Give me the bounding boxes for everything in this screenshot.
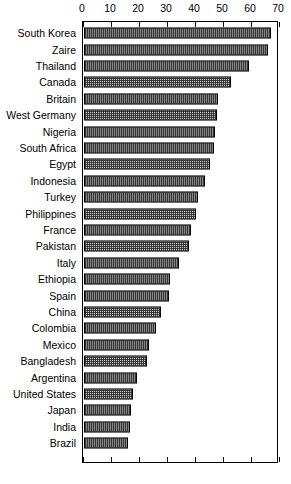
bar-row: Nigeria <box>0 123 291 139</box>
category-label: Egypt <box>49 158 76 170</box>
category-label: Bangladesh <box>21 355 76 367</box>
bar-row: Canada <box>0 74 291 90</box>
bar-row: Zaire <box>0 41 291 57</box>
bar-row: Indonesia <box>0 173 291 189</box>
category-label: South Korea <box>18 27 76 39</box>
bar-row: China <box>0 304 291 320</box>
bar-row: Ethiopia <box>0 271 291 287</box>
bar <box>84 93 218 104</box>
bar-row: France <box>0 222 291 238</box>
bar <box>84 339 150 350</box>
x-axis-tick-label: 30 <box>160 2 172 14</box>
category-label: Turkey <box>44 191 76 203</box>
bar-row: Argentina <box>0 369 291 385</box>
category-label: Mexico <box>43 339 76 351</box>
category-label: India <box>53 421 76 433</box>
bar-row: United States <box>0 386 291 402</box>
x-axis-tick-labels-top: 010203040506070 <box>0 2 291 16</box>
bar-row: Italy <box>0 255 291 271</box>
bar <box>84 126 216 137</box>
category-label: Italy <box>57 257 76 269</box>
bar-row: Colombia <box>0 320 291 336</box>
category-label: Nigeria <box>43 126 76 138</box>
bar <box>84 44 269 55</box>
category-label: Canada <box>39 76 76 88</box>
category-label: Thailand <box>36 60 76 72</box>
bar-row: Bangladesh <box>0 353 291 369</box>
bar-row: India <box>0 419 291 435</box>
category-label: Britain <box>46 93 76 105</box>
x-axis-tick-label: 60 <box>244 2 256 14</box>
x-axis-tick-label: 50 <box>216 2 228 14</box>
bar <box>84 257 179 268</box>
bar-row: West Germany <box>0 107 291 123</box>
bar <box>84 110 217 121</box>
bar <box>84 224 192 235</box>
bar-rows-container: South KoreaZaireThailandCanadaBritainWes… <box>0 21 291 463</box>
category-label: United States <box>13 388 76 400</box>
category-label: Zaire <box>52 44 76 56</box>
category-label: China <box>49 306 76 318</box>
category-label: Argentina <box>31 372 76 384</box>
bar <box>84 372 137 383</box>
category-label: Colombia <box>32 322 76 334</box>
category-label: Spain <box>49 290 76 302</box>
bar <box>84 208 196 219</box>
bar <box>84 274 171 285</box>
bar-row: Philippines <box>0 205 291 221</box>
bar <box>84 388 133 399</box>
category-label: Ethiopia <box>38 273 76 285</box>
bar <box>84 306 161 317</box>
bar <box>84 192 199 203</box>
bar <box>84 405 132 416</box>
x-axis-tick-label: 70 <box>272 2 284 14</box>
bar <box>84 356 147 367</box>
x-axis-tick-label: 40 <box>188 2 200 14</box>
bar <box>84 77 231 88</box>
bar-row: Mexico <box>0 337 291 353</box>
bar <box>84 438 129 449</box>
category-label: South Africa <box>19 142 76 154</box>
bar-row: Egypt <box>0 156 291 172</box>
category-label: Japan <box>47 404 76 416</box>
bar-chart: 010203040506070 South KoreaZaireThailand… <box>0 0 291 484</box>
x-axis-tick-label: 10 <box>104 2 116 14</box>
bar-row: Spain <box>0 287 291 303</box>
category-label: Brazil <box>50 437 76 449</box>
category-label: France <box>43 224 76 236</box>
bar-row: Pakistan <box>0 238 291 254</box>
bar-row: Britain <box>0 91 291 107</box>
bar <box>84 290 169 301</box>
bar <box>84 175 206 186</box>
bar-row: Turkey <box>0 189 291 205</box>
bar-row: South Africa <box>0 140 291 156</box>
bar <box>84 241 189 252</box>
bar-row: Japan <box>0 402 291 418</box>
category-label: Pakistan <box>36 240 76 252</box>
bar <box>84 28 272 39</box>
x-axis-tick-label: 0 <box>79 2 85 14</box>
category-label: Indonesia <box>30 175 76 187</box>
bar-row: Brazil <box>0 435 291 451</box>
category-label: Philippines <box>25 208 76 220</box>
bar <box>84 159 210 170</box>
bar <box>84 323 157 334</box>
bar <box>84 142 214 153</box>
bar-row: Thailand <box>0 58 291 74</box>
bar <box>84 421 130 432</box>
category-label: West Germany <box>6 109 76 121</box>
x-axis-tick-label: 20 <box>132 2 144 14</box>
bar-row: South Korea <box>0 25 291 41</box>
bar <box>84 60 249 71</box>
